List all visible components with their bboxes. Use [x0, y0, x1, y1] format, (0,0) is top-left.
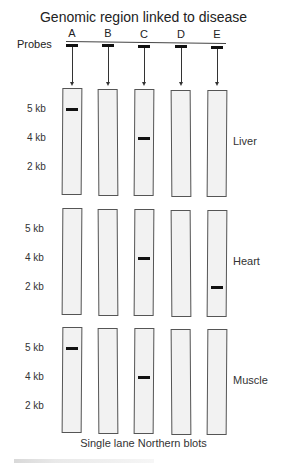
tissue-label-heart: Heart [233, 255, 260, 267]
probe-letter-d: D [171, 28, 191, 40]
probe-letter-b: B [98, 27, 118, 39]
probe-letter-c: C [134, 28, 154, 40]
arrow-shaft [144, 48, 145, 82]
blot-lane-muscle-e [207, 329, 228, 435]
arrow-down-icon [70, 82, 74, 86]
size-marker-5kb: 5 kb [25, 342, 59, 353]
size-marker-5kb: 5 kb [25, 223, 59, 234]
size-marker-4kb: 4 kb [27, 132, 61, 143]
blot-lane-heart-c [134, 209, 155, 316]
size-marker-2kb: 2 kb [25, 400, 59, 411]
blot-lane-muscle-d [171, 329, 192, 435]
arrow-down-icon [106, 82, 110, 86]
genomic-region-line [66, 41, 226, 44]
arrow-shaft [217, 49, 218, 82]
diagram-title: Genomic region linked to disease [0, 9, 287, 25]
probes-label: Probes [17, 38, 52, 50]
band-muscle-c [138, 376, 150, 379]
blot-lane-heart-e [207, 210, 228, 317]
tissue-label-muscle: Muscle [233, 374, 268, 386]
blot-lane-heart-d [171, 210, 192, 317]
arrow-down-icon [142, 82, 146, 86]
arrow-down-icon [179, 82, 183, 86]
blot-lane-muscle-a [62, 327, 83, 433]
band-liver-a [66, 108, 78, 111]
size-marker-2kb: 2 kb [27, 161, 61, 172]
blot-lane-muscle-b [98, 328, 119, 434]
arrow-shaft [108, 47, 109, 82]
arrow-shaft [181, 48, 182, 82]
probe-letter-a: A [62, 27, 82, 39]
arrow-down-icon [215, 82, 219, 86]
blot-lane-liver-d [171, 90, 192, 197]
blot-lane-heart-b [98, 209, 119, 316]
blot-lane-heart-a [62, 208, 83, 315]
blot-lane-liver-b [98, 89, 119, 196]
blot-lane-liver-a [62, 88, 83, 195]
blot-lane-liver-e [207, 90, 228, 197]
band-heart-c [138, 257, 150, 260]
band-liver-c [138, 137, 150, 140]
size-marker-4kb: 4 kb [25, 252, 59, 263]
size-marker-2kb: 2 kb [25, 281, 59, 292]
faint-footer-text [14, 459, 154, 463]
tissue-label-liver: Liver [233, 135, 257, 147]
band-muscle-a [66, 347, 78, 350]
caption: Single lane Northern blots [0, 437, 287, 449]
blot-lane-liver-c [134, 89, 155, 196]
probe-letter-e: E [207, 28, 227, 40]
size-marker-4kb: 4 kb [25, 371, 59, 382]
arrow-shaft [72, 47, 73, 82]
size-marker-5kb: 5 kb [27, 103, 61, 114]
blot-lane-muscle-c [134, 328, 155, 434]
band-heart-e [211, 286, 223, 289]
